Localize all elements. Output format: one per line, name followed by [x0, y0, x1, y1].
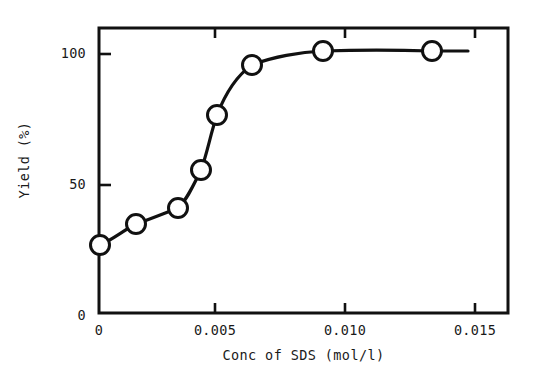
chart-figure: Yield (%) 100 50 0 0 0.005 0.010 0.015 C…: [0, 0, 538, 381]
axis-frame: [99, 28, 508, 313]
y-tick-marks: [99, 54, 111, 185]
data-point-5: [208, 106, 227, 125]
data-curve: [100, 50, 468, 245]
data-markers: [91, 42, 442, 255]
data-point-7: [314, 42, 333, 61]
data-point-1: [91, 236, 110, 255]
data-point-2: [127, 215, 146, 234]
data-point-6: [243, 56, 262, 75]
data-point-8: [423, 42, 442, 61]
plot-area: [0, 0, 538, 381]
data-point-4: [192, 161, 211, 180]
data-point-3: [169, 199, 188, 218]
